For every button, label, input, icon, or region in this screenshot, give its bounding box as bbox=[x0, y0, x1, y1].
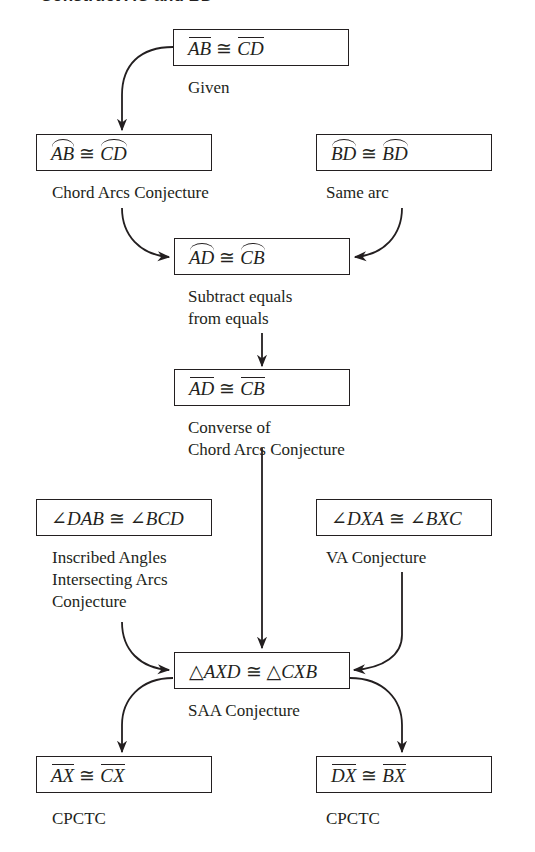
reason-text-n10: CPCTC bbox=[326, 808, 380, 830]
angle-symbol-icon: ∠ bbox=[130, 508, 146, 529]
reason-line: Conjecture bbox=[52, 591, 168, 613]
statement-text: ∠DXA≅∠BXC bbox=[331, 507, 462, 530]
congruent-symbol-icon: ≅ bbox=[219, 247, 235, 268]
arrow-n2-n4 bbox=[122, 208, 169, 257]
arc-label: BD bbox=[382, 143, 407, 165]
statement-box-n3: BD≅BD bbox=[316, 134, 492, 171]
reason-line: Inscribed Angles bbox=[52, 547, 168, 569]
congruent-symbol-icon: ≅ bbox=[109, 508, 125, 529]
statement-text: AB≅CD bbox=[188, 37, 264, 60]
reason-text-n5: Converse ofChord Arcs Conjecture bbox=[188, 417, 345, 461]
vertex-label: AXD bbox=[204, 661, 241, 683]
reason-text-n1: Given bbox=[188, 77, 230, 99]
segment-label: CX bbox=[100, 765, 124, 787]
congruent-symbol-icon: ≅ bbox=[246, 661, 262, 682]
congruent-symbol-icon: ≅ bbox=[389, 508, 405, 529]
statement-text: AD≅CB bbox=[189, 246, 265, 269]
arrow-n8-n10 bbox=[350, 678, 402, 752]
congruent-symbol-icon: ≅ bbox=[216, 38, 232, 59]
reason-line: Same arc bbox=[326, 182, 389, 204]
reason-line: CPCTC bbox=[326, 808, 380, 830]
vertex-label: DXA bbox=[347, 508, 384, 530]
segment-label: DX bbox=[331, 765, 356, 787]
statement-box-n1: AB≅CD bbox=[173, 29, 349, 66]
statement-text: △AXD≅△CXB bbox=[189, 660, 317, 683]
reason-text-n4: Subtract equalsfrom equals bbox=[188, 286, 292, 330]
reason-line: VA Conjecture bbox=[326, 547, 426, 569]
statement-box-n4: AD≅CB bbox=[174, 238, 350, 275]
statement-text: AD≅CB bbox=[189, 377, 265, 400]
angle-symbol-icon: ∠ bbox=[331, 508, 347, 529]
vertex-label: CXB bbox=[281, 661, 317, 683]
reason-text-n7: VA Conjecture bbox=[326, 547, 426, 569]
statement-box-n5: AD≅CB bbox=[174, 369, 350, 406]
angle-symbol-icon: ∠ bbox=[51, 508, 67, 529]
segment-label: AB bbox=[188, 38, 211, 60]
segment-label: AX bbox=[51, 765, 74, 787]
segment-label: CD bbox=[237, 38, 263, 60]
reason-line: Given bbox=[188, 77, 230, 99]
statement-box-n10: DX≅BX bbox=[316, 756, 492, 793]
segment-label: CB bbox=[240, 378, 264, 400]
congruent-symbol-icon: ≅ bbox=[361, 765, 377, 786]
statement-box-n6: ∠DAB≅∠BCD bbox=[36, 499, 212, 536]
statement-box-n9: AX≅CX bbox=[36, 756, 212, 793]
reason-text-n8: SAA Conjecture bbox=[188, 700, 300, 722]
arrow-n3-n4 bbox=[355, 208, 402, 257]
statement-box-n7: ∠DXA≅∠BXC bbox=[316, 499, 492, 536]
segment-label: AD bbox=[189, 378, 214, 400]
statement-box-n2: AB≅CD bbox=[36, 134, 212, 171]
reason-line: from equals bbox=[188, 308, 292, 330]
triangle-symbol-icon: △ bbox=[267, 661, 282, 682]
congruent-symbol-icon: ≅ bbox=[79, 143, 95, 164]
vertex-label: BCD bbox=[146, 508, 184, 530]
statement-text: BD≅BD bbox=[331, 142, 408, 165]
statement-text: DX≅BX bbox=[331, 764, 406, 787]
arc-label: BD bbox=[331, 143, 356, 165]
arc-label: AD bbox=[189, 247, 214, 269]
vertex-label: BXC bbox=[426, 508, 462, 530]
reason-line: SAA Conjecture bbox=[188, 700, 300, 722]
congruent-symbol-icon: ≅ bbox=[361, 143, 377, 164]
triangle-symbol-icon: △ bbox=[189, 661, 204, 682]
congruent-symbol-icon: ≅ bbox=[79, 765, 95, 786]
reason-line: Intersecting Arcs bbox=[52, 569, 168, 591]
statement-text: AX≅CX bbox=[51, 764, 125, 787]
arrow-n1-n2 bbox=[122, 47, 173, 130]
statement-text: ∠DAB≅∠BCD bbox=[51, 507, 184, 530]
reason-line: Converse of bbox=[188, 417, 345, 439]
segment-label: BX bbox=[382, 765, 405, 787]
arrow-n7-n8 bbox=[354, 572, 402, 670]
arrow-n6-n8 bbox=[122, 622, 169, 670]
reason-line: Chord Arcs Conjecture bbox=[188, 439, 345, 461]
statement-box-n8: △AXD≅△CXB bbox=[174, 652, 350, 689]
vertex-label: DAB bbox=[67, 508, 104, 530]
reason-line: CPCTC bbox=[52, 808, 106, 830]
reason-text-n9: CPCTC bbox=[52, 808, 106, 830]
arrow-n8-n9 bbox=[122, 678, 173, 752]
arc-label: CB bbox=[240, 247, 264, 269]
angle-symbol-icon: ∠ bbox=[410, 508, 426, 529]
reason-text-n6: Inscribed AnglesIntersecting ArcsConject… bbox=[52, 547, 168, 613]
arc-label: CD bbox=[100, 143, 126, 165]
arc-label: AB bbox=[51, 143, 74, 165]
congruent-symbol-icon: ≅ bbox=[219, 378, 235, 399]
reason-text-n2: Chord Arcs Conjecture bbox=[52, 182, 209, 204]
reason-text-n3: Same arc bbox=[326, 182, 389, 204]
reason-line: Subtract equals bbox=[188, 286, 292, 308]
reason-line: Chord Arcs Conjecture bbox=[52, 182, 209, 204]
statement-text: AB≅CD bbox=[51, 142, 127, 165]
